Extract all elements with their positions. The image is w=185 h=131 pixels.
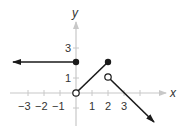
x-tick-label-2: 2 xyxy=(105,100,111,112)
x-axis-label: x xyxy=(169,86,177,100)
y-tick-label-3: 3 xyxy=(65,42,71,54)
descending-ray xyxy=(110,79,154,122)
open-dot-0-0 xyxy=(73,90,79,96)
piecewise-function-graph: x y −3 −2 −1 1 2 3 1 3 xyxy=(0,0,185,131)
diagonal-segment xyxy=(78,62,108,91)
x-tick-label-neg3: −3 xyxy=(18,100,31,112)
x-tick-label-1: 1 xyxy=(89,100,95,112)
x-tick-label-neg1: −1 xyxy=(52,100,65,112)
y-tick-label-1: 1 xyxy=(65,72,71,84)
series-piece-1 xyxy=(13,59,79,65)
closed-dot-2-2 xyxy=(105,59,111,65)
series-piece-3 xyxy=(105,74,154,122)
y-axis-label: y xyxy=(71,6,79,20)
open-dot-2-1 xyxy=(105,74,111,80)
x-tick-label-neg2: −2 xyxy=(35,100,48,112)
closed-dot-0-2 xyxy=(73,59,79,65)
x-tick-label-3: 3 xyxy=(121,100,127,112)
